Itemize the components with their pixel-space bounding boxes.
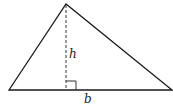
base-label: b <box>84 92 92 106</box>
height-label: h <box>69 47 77 61</box>
right-angle-marker <box>66 81 76 90</box>
triangle <box>9 4 172 90</box>
triangle-diagram: h b <box>0 0 173 112</box>
